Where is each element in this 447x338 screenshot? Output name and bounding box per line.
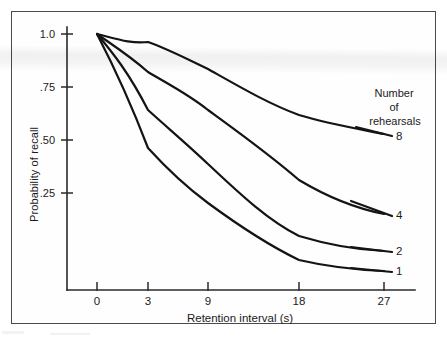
x-tick-label-1: 0 — [82, 296, 112, 308]
scan-smudge-artifact — [2, 331, 24, 334]
leader-line-8 — [356, 127, 392, 136]
legend-title-line-1: Number — [358, 88, 430, 99]
y-tick-label-2: .75 — [31, 82, 55, 93]
series-label-2: 2 — [396, 246, 402, 258]
curve-series-4 — [97, 34, 384, 214]
leader-line-4 — [351, 201, 392, 216]
series-leader-lines — [351, 127, 392, 272]
x-tick-label-4: 18 — [284, 296, 314, 308]
y-tick-label-1: 1.0 — [31, 29, 55, 40]
chart-plot-area — [11, 11, 436, 324]
curve-series-8 — [97, 34, 384, 134]
y-axis-title: Probability of recall — [29, 127, 40, 222]
series-label-4: 4 — [396, 210, 402, 222]
x-tick-label-5: 27 — [369, 296, 399, 308]
scan-smudge-artifact — [50, 333, 90, 335]
x-tick-label-3: 9 — [193, 296, 223, 308]
figure: 1.0 .75 .50 .25 0 3 9 18 27 Probability … — [0, 0, 447, 338]
x-tick-label-2: 3 — [133, 296, 163, 308]
series-label-8: 8 — [396, 131, 402, 143]
legend-title-line-3: rehearsals — [356, 116, 434, 127]
series-label-1: 1 — [396, 266, 402, 278]
x-axis-title: Retention interval (s) — [140, 313, 340, 325]
curve-series-1 — [97, 34, 384, 271]
legend-title-line-2: of — [358, 102, 430, 113]
data-curves — [97, 34, 384, 271]
